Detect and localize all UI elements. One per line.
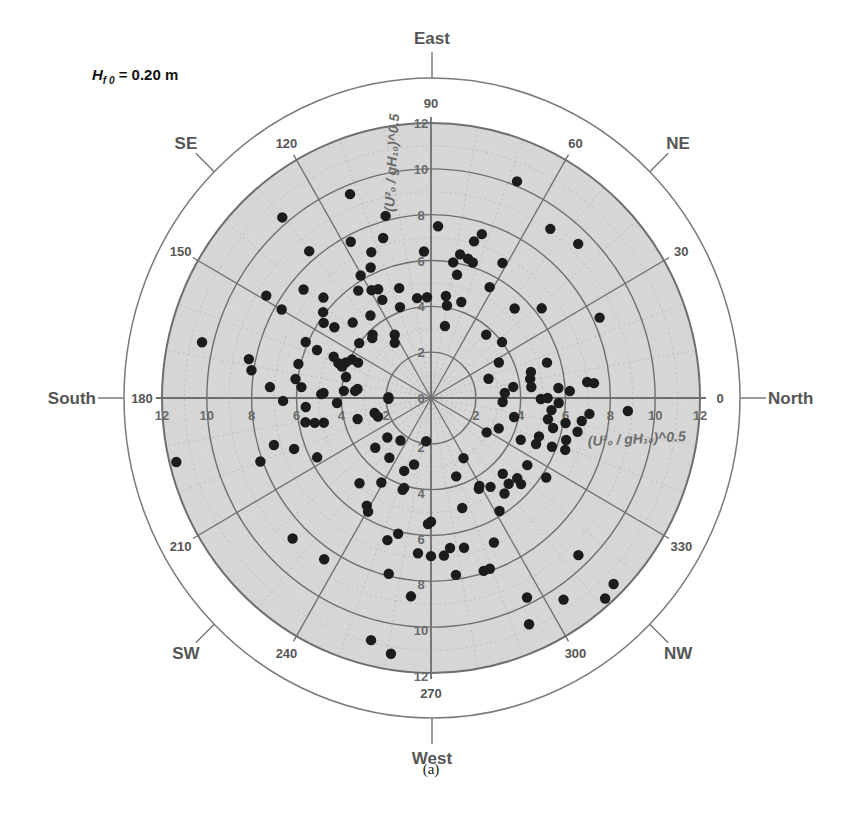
data-point: [393, 528, 403, 538]
radial-tick-left-2: 2: [383, 408, 390, 423]
data-point: [558, 594, 568, 604]
data-point: [546, 405, 556, 415]
data-point: [382, 535, 392, 545]
data-point: [255, 456, 265, 466]
data-point: [382, 432, 392, 442]
radial-tick-left-10: 10: [200, 408, 214, 423]
data-point: [318, 307, 328, 317]
condition-annotation: Hf 0 = 0.20 m: [92, 66, 178, 86]
data-point: [332, 398, 342, 408]
data-point: [409, 459, 419, 469]
angle-label-330: 330: [670, 539, 692, 554]
compass-label-nw: NW: [664, 644, 693, 663]
data-point: [548, 423, 558, 433]
radial-tick-right-8: 8: [607, 408, 614, 423]
data-point: [477, 229, 487, 239]
data-point: [589, 378, 599, 388]
data-point: [412, 293, 422, 303]
data-point: [406, 591, 416, 601]
data-point: [503, 479, 513, 489]
data-point: [365, 262, 375, 272]
data-point: [397, 485, 407, 495]
data-point: [394, 283, 404, 293]
data-point: [304, 246, 314, 256]
data-point: [516, 479, 526, 489]
data-point: [457, 503, 467, 513]
data-point: [474, 484, 484, 494]
data-point: [265, 382, 275, 392]
data-point: [516, 435, 526, 445]
data-point: [355, 270, 365, 280]
angle-label-60: 60: [568, 136, 582, 151]
data-point: [278, 396, 288, 406]
data-point: [451, 471, 461, 481]
data-point: [561, 435, 571, 445]
data-point: [522, 460, 532, 470]
angle-label-120: 120: [276, 136, 298, 151]
data-point: [276, 304, 286, 314]
data-point: [384, 569, 394, 579]
data-point: [370, 443, 380, 453]
data-point: [478, 566, 488, 576]
data-point: [373, 284, 383, 294]
angle-label-270: 270: [420, 686, 442, 701]
angle-label-300: 300: [565, 646, 587, 661]
data-point: [441, 291, 451, 301]
compass-label-se: SE: [175, 134, 198, 153]
data-point: [498, 469, 508, 479]
data-point: [485, 482, 495, 492]
data-point: [456, 297, 466, 307]
radial-tick-down-6: 6: [417, 532, 424, 547]
data-point: [600, 593, 610, 603]
data-point: [261, 290, 271, 300]
data-point: [366, 247, 376, 257]
data-point: [494, 506, 504, 516]
data-point: [508, 382, 518, 392]
data-point: [399, 466, 409, 476]
data-point: [524, 619, 534, 629]
data-point: [426, 551, 436, 561]
data-point: [380, 211, 390, 221]
radial-tick-down-4: 4: [417, 486, 425, 501]
data-point: [367, 333, 377, 343]
angle-label-90: 90: [424, 96, 438, 111]
data-point: [489, 537, 499, 547]
data-point: [448, 257, 458, 267]
data-point: [484, 282, 494, 292]
data-point: [497, 258, 507, 268]
data-point: [197, 337, 207, 347]
data-point: [512, 176, 522, 186]
data-point: [494, 357, 504, 367]
data-point: [395, 302, 405, 312]
data-point: [354, 478, 364, 488]
compass-label-south: South: [48, 389, 96, 408]
data-point: [560, 418, 570, 428]
data-point: [547, 442, 557, 452]
data-point: [451, 570, 461, 580]
data-point: [584, 409, 594, 419]
data-point: [419, 246, 429, 256]
data-point: [298, 284, 308, 294]
radial-tick-left-4: 4: [338, 408, 346, 423]
data-point: [246, 365, 256, 375]
data-point: [319, 554, 329, 564]
data-point: [244, 354, 254, 364]
data-point: [573, 239, 583, 249]
radial-tick-left-6: 6: [293, 408, 300, 423]
data-point: [422, 292, 432, 302]
data-point: [395, 435, 405, 445]
data-point: [531, 439, 541, 449]
data-point: [439, 550, 449, 560]
data-point: [366, 635, 376, 645]
data-point: [339, 386, 349, 396]
data-point: [319, 318, 329, 328]
data-point: [341, 372, 351, 382]
figure-caption: (a): [423, 761, 440, 778]
data-point: [289, 444, 299, 454]
data-point: [494, 423, 504, 433]
data-point: [269, 440, 279, 450]
radial-tick-right-10: 10: [648, 408, 662, 423]
compass-label-sw: SW: [172, 644, 200, 663]
data-point: [509, 412, 519, 422]
data-point: [293, 359, 303, 369]
